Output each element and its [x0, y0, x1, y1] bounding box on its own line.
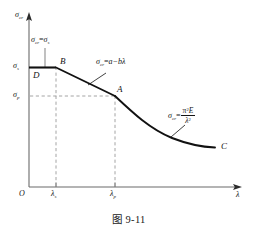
- point-label-C: C: [221, 142, 227, 151]
- point-label-B: B: [60, 57, 66, 66]
- curve-segment-BA-linear: [56, 68, 115, 97]
- figure-container: σcr λ O σs σp λs λp D B A C σcr=σs σcr=a…: [0, 0, 258, 232]
- plot-area: [0, 0, 258, 204]
- axes-group: [26, 12, 242, 190]
- point-label-D: D: [33, 71, 40, 80]
- x-axis-label: λ: [236, 191, 239, 199]
- equation-linear-empirical: σcr=a−bλ: [96, 58, 125, 66]
- curve-segment-AC-euler: [115, 96, 215, 148]
- euler-numerator: π2E: [181, 106, 196, 116]
- point-label-A: A: [117, 85, 123, 94]
- reference-lines-group: [30, 69, 115, 186]
- euler-fraction: π2Eλ2: [181, 106, 196, 126]
- plot-svg: [0, 0, 258, 204]
- y-tick-label-sigma-s: σs: [13, 62, 19, 70]
- figure-caption: 图 9-11: [112, 211, 145, 226]
- equation-euler-formula: σcr=π2Eλ2: [168, 106, 195, 126]
- caption-bar: 图 9-11: [0, 204, 258, 232]
- x-tick-label-lambda-s: λs: [51, 190, 56, 198]
- leader-line-linear-label: [88, 73, 106, 85]
- tick-marks-group: [56, 183, 115, 188]
- y-axis-label: σcr: [15, 11, 23, 19]
- y-tick-label-sigma-p: σp: [13, 91, 19, 99]
- equation-yield-plateau: σcr=σs: [31, 36, 50, 44]
- origin-label: O: [19, 190, 25, 198]
- euler-denominator: λ2: [181, 116, 196, 126]
- leader-line-euler-label: [171, 125, 185, 137]
- x-tick-label-lambda-p: λp: [110, 190, 116, 198]
